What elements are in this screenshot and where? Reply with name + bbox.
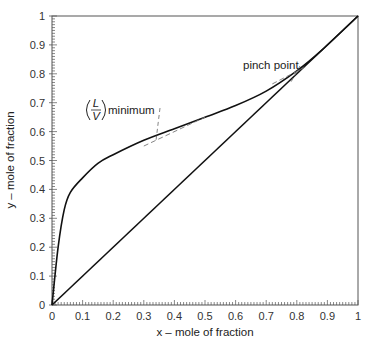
y-tick-label: 0.8: [30, 68, 45, 80]
x-tick-label: 0.4: [167, 310, 182, 322]
pinch-point-label: pinch point: [243, 59, 299, 71]
y-tick-label: 0.6: [30, 126, 45, 138]
diagonal-y-x-line: [52, 16, 358, 305]
x-tick-label: 0.3: [136, 310, 151, 322]
y-tick-label: 0.1: [30, 270, 45, 282]
y-axis-label: y – mole of fraction: [4, 111, 16, 208]
lv-suffix: minimum: [108, 104, 155, 116]
lv-numerator: L: [93, 97, 99, 109]
y-tick-label: 0.4: [30, 183, 45, 195]
x-axis-label: x – mole of fraction: [156, 326, 253, 338]
x-tick-label: 0.9: [320, 310, 335, 322]
y-tick-label: 0.2: [30, 241, 45, 253]
x-tick-label: 0.8: [289, 310, 304, 322]
x-tick-label: 1: [355, 310, 361, 322]
y-tick-label: 0.5: [30, 155, 45, 167]
x-tick-label: 0.5: [197, 310, 212, 322]
series-lines: [52, 16, 358, 305]
left-paren-icon: [87, 100, 91, 120]
y-tick-label: 0.9: [30, 39, 45, 51]
lv-denominator: V: [92, 110, 101, 122]
x-tick-labels: 00.10.20.30.40.50.60.70.80.91: [49, 310, 361, 322]
x-tick-label: 0.7: [259, 310, 274, 322]
x-tick-label: 0: [49, 310, 55, 322]
y-tick-label: 0.3: [30, 212, 45, 224]
x-tick-label: 0.1: [75, 310, 90, 322]
l-v-minimum-tangent-line: [144, 117, 205, 146]
x-tick-label: 0.2: [106, 310, 121, 322]
y-tick-labels: 00.10.20.30.40.50.60.70.80.91: [30, 10, 45, 311]
lv-minimum-annotation: L V minimum: [87, 97, 155, 122]
y-tick-label: 0: [39, 299, 45, 311]
y-tick-label: 1: [39, 10, 45, 22]
x-tick-label: 0.6: [228, 310, 243, 322]
y-tick-label: 0.7: [30, 97, 45, 109]
vle-chart: 00.10.20.30.40.50.60.70.80.91 00.10.20.3…: [0, 0, 376, 351]
right-paren-icon: [102, 100, 106, 120]
